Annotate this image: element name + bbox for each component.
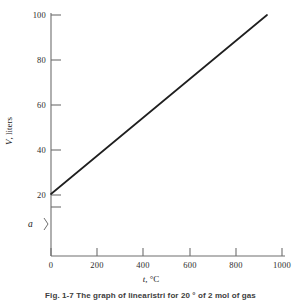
y-tick-label-80: 80 (26, 55, 46, 65)
x-axis-unit: , °C (145, 274, 159, 284)
x-tick-label-400: 400 (136, 260, 149, 270)
intercept-bracket-icon (44, 218, 48, 230)
x-axis-title: t, °C (143, 274, 160, 284)
y-tick-label-100: 100 (26, 10, 46, 20)
y-tick-label-20: 20 (26, 190, 46, 200)
x-tick-label-800: 800 (229, 260, 242, 270)
intercept-annotation-label: a (28, 219, 33, 229)
y-tick-marks (51, 15, 61, 207)
x-tick-label-0: 0 (49, 260, 53, 270)
x-tick-label-200: 200 (90, 260, 103, 270)
y-axis-title: V, liters (4, 117, 14, 145)
y-axis-unit: , liters (4, 117, 14, 140)
x-tick-label-1000: 1000 (273, 260, 291, 270)
figure-caption: Fig. 1-7 The graph of linearistri for 20… (0, 291, 301, 300)
figure-container: 100 80 60 40 20 0 200 400 600 800 1000 a… (0, 0, 301, 300)
y-tick-label-40: 40 (26, 145, 46, 155)
y-axis-symbol: V (4, 140, 14, 146)
data-series-line (51, 15, 267, 194)
x-tick-label-600: 600 (183, 260, 196, 270)
y-tick-label-60: 60 (26, 100, 46, 110)
x-tick-marks (51, 248, 282, 256)
